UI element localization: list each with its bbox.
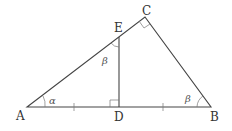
- angle-label-beta-b: β: [184, 93, 191, 104]
- angle-arc-a: [43, 96, 45, 107]
- angle-arc-e: [111, 43, 119, 47]
- angle-arc-b: [197, 96, 203, 107]
- label-e: E: [114, 21, 123, 35]
- label-d: D: [114, 110, 124, 124]
- label-c: C: [142, 4, 151, 18]
- right-angle-d: [110, 100, 119, 107]
- label-a: A: [15, 109, 25, 123]
- angle-label-alpha: α: [49, 95, 56, 106]
- angle-label-beta-e: β: [101, 55, 108, 66]
- triangle-diagram: A D B C E α β β: [0, 0, 232, 131]
- label-b: B: [210, 110, 219, 124]
